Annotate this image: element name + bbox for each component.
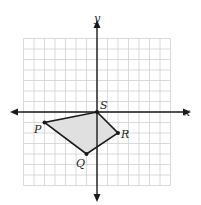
y-axis-label: y <box>93 12 101 25</box>
vertex-q <box>85 152 89 156</box>
x-axis-label: x <box>184 106 191 119</box>
vertex-label-p: P <box>33 123 42 136</box>
vertex-label-r: R <box>120 128 129 141</box>
coordinate-plane: x y S R Q P <box>0 0 201 205</box>
vertex-r <box>116 131 120 135</box>
vertex-label-s: S <box>100 99 108 112</box>
vertex-p <box>43 121 47 125</box>
vertex-label-q: Q <box>76 157 85 170</box>
vertex-s <box>95 110 99 114</box>
